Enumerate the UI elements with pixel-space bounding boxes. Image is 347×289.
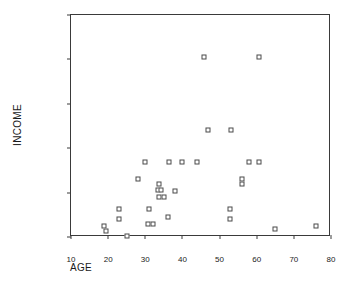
data-point	[173, 189, 178, 194]
data-point	[116, 217, 121, 222]
data-point	[165, 215, 170, 220]
x-axis-tick	[145, 235, 146, 239]
data-point	[150, 221, 155, 226]
x-axis-tick	[182, 235, 183, 239]
data-point	[227, 207, 232, 212]
y-axis-tick	[67, 59, 71, 60]
x-axis-title: AGE	[70, 262, 92, 273]
x-axis-tick-label: 60	[252, 256, 261, 264]
scatter-plot-figure: 0200004000060000800001000001020304050607…	[0, 0, 347, 289]
data-point	[257, 55, 262, 60]
plot-area: 0200004000060000800001000001020304050607…	[70, 14, 330, 236]
x-axis-tick-label: 80	[327, 256, 336, 264]
data-point	[143, 159, 148, 164]
data-point	[166, 159, 171, 164]
data-point	[227, 217, 232, 222]
x-axis-tick	[219, 235, 220, 239]
data-point	[161, 195, 166, 200]
data-point	[135, 177, 140, 182]
y-axis-tick	[67, 15, 71, 16]
x-axis-tick-label: 40	[178, 256, 187, 264]
x-axis-tick-label: 20	[104, 256, 113, 264]
data-point	[147, 207, 152, 212]
data-point	[195, 159, 200, 164]
data-point	[201, 55, 206, 60]
data-point	[117, 207, 122, 212]
x-axis-tick-label: 50	[215, 256, 224, 264]
y-axis-tick	[67, 148, 71, 149]
data-point	[256, 159, 261, 164]
data-point	[228, 128, 233, 133]
x-axis-tick	[331, 235, 332, 239]
x-axis-tick	[71, 235, 72, 239]
data-point	[273, 226, 278, 231]
data-point	[104, 228, 109, 233]
data-point	[247, 159, 252, 164]
y-axis-title: INCOME	[12, 104, 23, 146]
data-point	[159, 188, 164, 193]
data-point	[205, 128, 210, 133]
x-axis-tick	[256, 235, 257, 239]
x-axis-tick-label: 30	[141, 256, 150, 264]
x-axis-tick	[293, 235, 294, 239]
y-axis-tick	[67, 103, 71, 104]
data-point	[239, 181, 244, 186]
x-axis-tick-label: 70	[289, 256, 298, 264]
data-point	[156, 181, 161, 186]
data-point	[314, 223, 319, 228]
x-axis-tick	[108, 235, 109, 239]
y-axis-tick	[67, 192, 71, 193]
data-point	[180, 159, 185, 164]
data-point	[124, 234, 129, 239]
